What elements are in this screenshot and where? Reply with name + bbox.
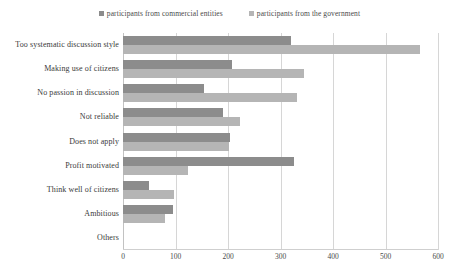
x-tick-label-300: 300	[275, 252, 286, 261]
legend-swatch-commercial-entities	[99, 11, 104, 16]
legend-label-government: participants from the government	[257, 9, 360, 18]
x-tick-label-500: 500	[380, 252, 391, 261]
bar-group	[123, 181, 438, 199]
bar	[123, 117, 240, 126]
legend-swatch-government	[249, 11, 254, 16]
category-label: Too systematic discussion style	[0, 40, 119, 49]
category-label: Does not apply	[0, 137, 119, 146]
bar	[123, 142, 229, 151]
bar	[123, 93, 297, 102]
bar	[123, 214, 165, 223]
bar	[123, 166, 188, 175]
category-label: Profit motivated	[0, 161, 119, 170]
bar	[123, 157, 294, 166]
bar-group	[123, 133, 438, 151]
x-tick-label-400: 400	[327, 252, 338, 261]
bar	[123, 133, 230, 142]
bar	[123, 181, 149, 190]
bar-group	[123, 60, 438, 78]
bar	[123, 36, 291, 45]
x-tick-label-100: 100	[170, 252, 181, 261]
bar-chart: participants from commercial entities pa…	[0, 0, 459, 271]
bar-series-container	[123, 33, 438, 250]
bar	[123, 108, 223, 117]
gridline-600	[438, 33, 439, 250]
category-label: Others	[0, 233, 119, 242]
category-label: Think well of citizens	[0, 185, 119, 194]
x-axis-tick-labels: 0100200300400500600	[123, 252, 438, 266]
legend-label-commercial-entities: participants from commercial entities	[107, 9, 223, 18]
bar	[123, 190, 174, 199]
bar-group	[123, 229, 438, 247]
plot-area	[123, 33, 438, 250]
category-label: Not reliable	[0, 112, 119, 121]
bar-group	[123, 108, 438, 126]
chart-legend: participants from commercial entities pa…	[0, 9, 459, 18]
category-label: Ambitious	[0, 209, 119, 218]
bar	[123, 60, 232, 69]
x-tick-label-600: 600	[432, 252, 443, 261]
category-axis-labels: Too systematic discussion styleMaking us…	[0, 33, 119, 250]
bar	[123, 84, 204, 93]
bar	[123, 205, 173, 214]
bar-group	[123, 84, 438, 102]
x-tick-label-200: 200	[222, 252, 233, 261]
category-label: Making use of citizens	[0, 64, 119, 73]
legend-item-government: participants from the government	[249, 9, 360, 18]
bar	[123, 45, 420, 54]
bar	[123, 69, 304, 78]
bar-group	[123, 36, 438, 54]
category-label: No passion in discussion	[0, 88, 119, 97]
x-tick-label-0: 0	[121, 252, 125, 261]
x-axis-line	[123, 249, 438, 250]
bar-group	[123, 157, 438, 175]
legend-item-commercial-entities: participants from commercial entities	[99, 9, 223, 18]
bar-group	[123, 205, 438, 223]
